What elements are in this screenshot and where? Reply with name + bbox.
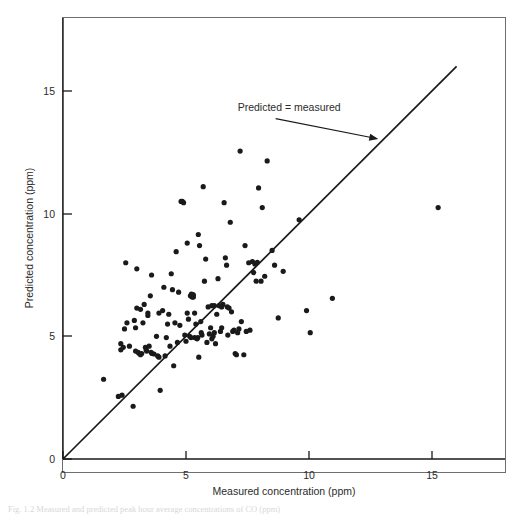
y-axis-ticks: 15 10 5 0 bbox=[43, 85, 72, 465]
data-point bbox=[101, 377, 106, 382]
data-point bbox=[148, 293, 153, 298]
data-point bbox=[156, 355, 161, 360]
figure-caption: Fig. 1.2 Measured and predicted peak hou… bbox=[8, 504, 508, 514]
data-point bbox=[208, 325, 213, 330]
data-point bbox=[219, 304, 224, 309]
data-point bbox=[161, 285, 166, 290]
data-point bbox=[241, 352, 246, 357]
data-point bbox=[124, 320, 129, 325]
data-point bbox=[223, 255, 228, 260]
data-point bbox=[185, 241, 190, 246]
data-point bbox=[276, 315, 281, 320]
data-point bbox=[203, 256, 208, 261]
data-point bbox=[138, 307, 143, 312]
data-point bbox=[183, 339, 188, 344]
data-point bbox=[142, 302, 147, 307]
x-axis-title: Measured concentration (ppm) bbox=[213, 485, 356, 497]
data-point bbox=[304, 308, 309, 313]
data-point bbox=[166, 312, 171, 317]
data-point bbox=[185, 310, 190, 315]
x-tick-label-10: 10 bbox=[303, 469, 315, 481]
data-point bbox=[281, 269, 286, 274]
x-tick-label-5: 5 bbox=[183, 469, 189, 481]
data-point bbox=[167, 344, 172, 349]
data-point bbox=[147, 344, 152, 349]
data-point bbox=[133, 325, 138, 330]
data-point bbox=[236, 326, 241, 331]
data-point bbox=[225, 333, 230, 338]
data-point bbox=[165, 321, 170, 326]
data-point bbox=[308, 330, 313, 335]
data-point bbox=[181, 200, 186, 205]
data-point bbox=[254, 279, 259, 284]
data-point bbox=[195, 335, 200, 340]
annotation-arrowhead-icon bbox=[369, 134, 379, 141]
data-point bbox=[198, 319, 203, 324]
data-point bbox=[123, 260, 128, 265]
data-point bbox=[215, 276, 220, 281]
data-point bbox=[122, 326, 127, 331]
y-axis-title: Predicted concentration (ppm) bbox=[23, 168, 35, 309]
data-point bbox=[144, 348, 149, 353]
y-tick-label-5: 5 bbox=[49, 330, 55, 342]
data-point bbox=[162, 353, 167, 358]
data-point bbox=[255, 260, 260, 265]
x-tick-label-15: 15 bbox=[426, 469, 438, 481]
data-point bbox=[213, 341, 218, 346]
data-point bbox=[229, 309, 234, 314]
data-point bbox=[199, 330, 204, 335]
y-tick-label-15: 15 bbox=[43, 85, 55, 97]
annotation-arrow-icon bbox=[276, 119, 377, 139]
data-point bbox=[169, 271, 174, 276]
data-point bbox=[156, 310, 161, 315]
data-point bbox=[133, 348, 138, 353]
data-point bbox=[436, 205, 441, 210]
data-point bbox=[154, 334, 159, 339]
data-point bbox=[272, 263, 277, 268]
plot-frame bbox=[63, 18, 506, 473]
data-point bbox=[228, 220, 233, 225]
data-point bbox=[330, 296, 335, 301]
data-point bbox=[224, 263, 229, 268]
data-point bbox=[214, 312, 219, 317]
data-point bbox=[239, 319, 244, 324]
data-point bbox=[238, 149, 243, 154]
data-point bbox=[209, 303, 214, 308]
data-point bbox=[212, 330, 217, 335]
data-point bbox=[201, 184, 206, 189]
data-point bbox=[297, 217, 302, 222]
data-point bbox=[242, 243, 247, 248]
data-point bbox=[202, 279, 207, 284]
x-tick-label-0: 0 bbox=[60, 469, 66, 481]
data-point bbox=[260, 205, 265, 210]
data-point bbox=[148, 350, 153, 355]
data-point bbox=[207, 331, 212, 336]
data-point bbox=[121, 345, 126, 350]
data-point bbox=[164, 335, 169, 340]
data-point bbox=[234, 352, 239, 357]
data-point bbox=[170, 287, 175, 292]
data-point bbox=[251, 270, 256, 275]
data-point bbox=[222, 200, 227, 205]
figure-container: 15 10 5 0 0 5 10 15 Measured concentrati… bbox=[0, 0, 525, 514]
data-point bbox=[175, 340, 180, 345]
data-point bbox=[191, 293, 196, 298]
data-point bbox=[196, 232, 201, 237]
y-tick-label-0: 0 bbox=[49, 453, 55, 465]
data-point bbox=[270, 248, 275, 253]
data-point bbox=[171, 363, 176, 368]
data-point bbox=[196, 355, 201, 360]
annotation-label: Predicted = measured bbox=[238, 101, 341, 113]
data-point bbox=[134, 266, 139, 271]
data-point bbox=[127, 344, 132, 349]
data-point bbox=[262, 274, 267, 279]
x-axis-ticks: 0 5 10 15 bbox=[60, 451, 438, 481]
data-point bbox=[186, 317, 191, 322]
data-point bbox=[225, 304, 230, 309]
data-point bbox=[256, 185, 261, 190]
data-point bbox=[192, 310, 197, 315]
data-point bbox=[177, 323, 182, 328]
data-point bbox=[197, 243, 202, 248]
annotation-predicted-equals-measured: Predicted = measured bbox=[238, 101, 379, 141]
y-tick-label-10: 10 bbox=[43, 208, 55, 220]
